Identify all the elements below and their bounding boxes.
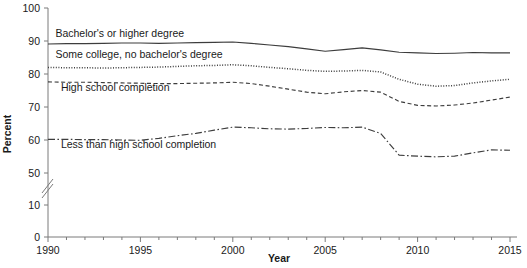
y-tick-label: 60 [28, 134, 40, 146]
series-annotation-3: Less than high school completion [61, 138, 216, 150]
x-tick-label: 2010 [406, 244, 430, 256]
y-tick-label: 10 [28, 199, 40, 211]
y-axis-title: Percent [1, 114, 13, 153]
series-annotations-group: Bachelor's or higher degreeSome college,… [55, 27, 222, 151]
x-axis-title: Year [268, 252, 290, 264]
series-annotation-2: High school completion [61, 81, 170, 93]
y-tick-label: 100 [22, 2, 40, 14]
chart-container: 0105060708090100 19901995200020052010201… [0, 0, 527, 268]
y-tick-label: 90 [28, 35, 40, 47]
y-axis-ticks: 0105060708090100 [22, 2, 48, 243]
line-chart: 0105060708090100 19901995200020052010201… [0, 0, 527, 268]
y-tick-label: 80 [28, 68, 40, 80]
x-tick-label: 1990 [36, 244, 60, 256]
x-tick-label: 2005 [314, 244, 338, 256]
series-annotation-1: Some college, no bachelor's degree [55, 48, 222, 60]
y-tick-label: 0 [34, 231, 40, 243]
x-tick-label: 2015 [498, 244, 522, 256]
y-tick-label: 70 [28, 101, 40, 113]
series-annotation-0: Bachelor's or higher degree [55, 27, 184, 39]
y-tick-label: 50 [28, 167, 40, 179]
x-tick-label: 2000 [221, 244, 245, 256]
x-tick-label: 1995 [129, 244, 153, 256]
